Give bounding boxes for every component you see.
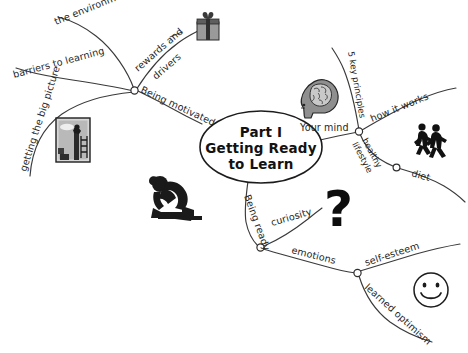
center-title-line3: to Learn	[228, 156, 293, 172]
sprinter-start-icon	[149, 176, 202, 221]
runners-icon	[414, 123, 447, 158]
label-being-ready: Being ready	[242, 193, 273, 252]
node-dot-emotions	[354, 269, 361, 276]
branch-line-your-mind	[320, 132, 358, 140]
node-dot-your-mind	[355, 128, 362, 135]
label-the-environment: the environment	[53, 0, 133, 27]
center-title-line1: Part I	[240, 124, 283, 140]
label-being-motivated: Being motivated	[139, 84, 217, 128]
label-diet: diet	[410, 167, 431, 183]
svg-text:?: ?	[324, 180, 353, 238]
label-self-esteem: self-esteem	[363, 240, 420, 268]
node-dot-healthy-lifestyle	[393, 164, 400, 171]
mindmap-canvas: Part I Getting Ready to Learn the enviro…	[0, 0, 468, 353]
label-how-it-works: how it works	[369, 91, 430, 124]
label-your-mind: Your mind	[299, 122, 349, 133]
label-curiosity: curiosity	[270, 206, 313, 228]
brain-head-icon	[301, 80, 338, 118]
mindmap-svg: Part I Getting Ready to Learn the enviro…	[0, 0, 468, 353]
question-mark-icon: ?	[324, 180, 353, 238]
center-title-line2: Getting Ready	[205, 140, 316, 156]
node-dot-being-motivated	[131, 87, 138, 94]
smiley-face-icon	[414, 273, 448, 307]
framed-picture-icon	[56, 118, 90, 162]
gift-box-icon	[197, 12, 219, 40]
branch-line-diet	[398, 168, 465, 202]
